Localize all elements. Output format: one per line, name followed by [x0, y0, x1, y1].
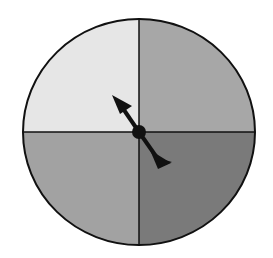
- spinner-svg: [0, 0, 273, 258]
- section-bottom-left: [0, 132, 139, 258]
- spinner-diagram: [0, 0, 273, 258]
- pivot-icon: [132, 125, 146, 139]
- section-top-left: [0, 0, 139, 132]
